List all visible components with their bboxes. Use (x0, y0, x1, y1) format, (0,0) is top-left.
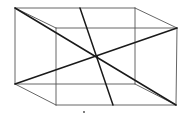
edge-back-top-right-to-front-top-right (135, 8, 177, 28)
edge-back-bottom-left-to-front-bottom-left (15, 84, 56, 105)
edge-front-top-right-to-front-bottom-right (176, 28, 177, 105)
cuboid-diagram (0, 0, 186, 114)
intersection-point (96, 56, 98, 58)
small-dot-mark (83, 111, 85, 113)
